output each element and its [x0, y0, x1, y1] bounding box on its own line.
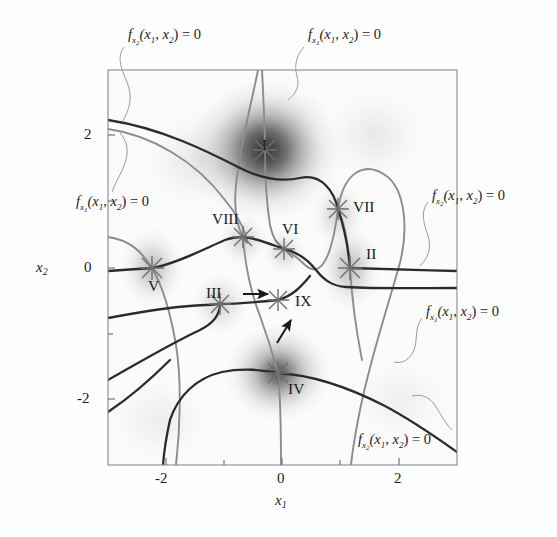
point-label-III: III — [206, 284, 222, 301]
point-label-I: I — [262, 136, 267, 153]
marker-VIII — [232, 226, 254, 248]
marker-VII — [327, 198, 349, 220]
marker-VI — [273, 238, 295, 260]
point-label-VIII: VIII — [212, 210, 239, 227]
marker-IX — [267, 289, 289, 311]
density-haze-upper-left — [140, 105, 260, 215]
figure-container: I II III IV V VI VII VIII IX — [0, 0, 557, 537]
density-haze-lower-left — [105, 375, 215, 465]
point-label-IV: IV — [288, 380, 305, 397]
point-label-VI: VI — [282, 220, 298, 237]
point-label-VII: VII — [353, 198, 375, 215]
marker-IV — [266, 361, 290, 385]
point-label-IX: IX — [295, 292, 311, 309]
plot-area: I II III IV V VI VII VIII IX — [105, 47, 457, 465]
point-label-II: II — [366, 245, 376, 262]
plot-svg: I II III IV V VI VII VIII IX — [0, 0, 557, 537]
marker-II — [338, 256, 362, 280]
point-label-V: V — [148, 277, 160, 294]
